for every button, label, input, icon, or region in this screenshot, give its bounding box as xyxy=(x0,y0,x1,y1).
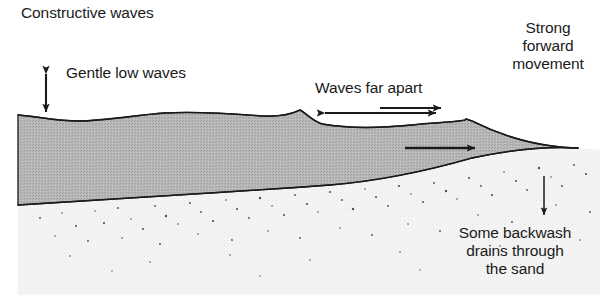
some-backwash-label: Some backwash drains through the sand xyxy=(432,224,598,278)
waves-far-apart-label: Waves far apart xyxy=(315,79,422,97)
strong-forward-movement-label: Strong forward movement xyxy=(492,19,604,73)
page-title: Constructive waves xyxy=(21,4,154,22)
gentle-low-waves-label: Gentle low waves xyxy=(66,64,186,82)
constructive-waves-diagram: Constructive waves Gentle low waves Wave… xyxy=(0,0,606,302)
